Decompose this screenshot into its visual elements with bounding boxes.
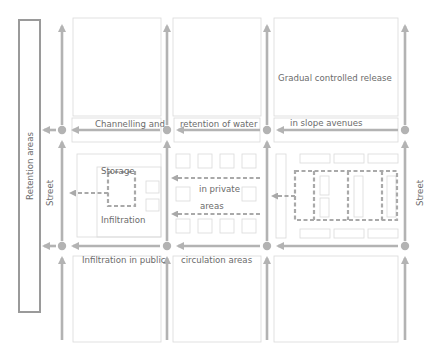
retention-areas-label: Retention areas: [25, 132, 35, 200]
storage-label: Storage: [101, 166, 135, 176]
public-circulation-label-1: Infiltration in public: [82, 255, 166, 265]
junction-node: [263, 242, 271, 250]
retention-areas-box: Retention areas: [19, 20, 40, 312]
junction-node: [263, 126, 271, 134]
channelling-label-2: retention of water: [180, 119, 258, 129]
public-circulation-label-2: circulation areas: [181, 255, 253, 265]
stormwater-diagram: Retention areas: [0, 0, 444, 361]
junction-node: [58, 126, 66, 134]
private-areas-label-2: areas: [200, 201, 224, 211]
gradual-release-label: Gradual controlled release: [278, 73, 392, 83]
street-right-label: Street: [415, 179, 425, 206]
junction-node: [163, 242, 171, 250]
junction-node: [401, 126, 409, 134]
dashed-private-flows: [71, 171, 397, 220]
junction-node: [58, 242, 66, 250]
channelling-label-3: in slope avenues: [290, 118, 363, 128]
channelling-label-1: Channelling and: [95, 119, 165, 129]
junction-node: [401, 242, 409, 250]
street-left-label: Street: [45, 179, 55, 206]
infiltration-label: Infiltration: [101, 215, 145, 225]
private-areas-label-1: in private: [199, 184, 240, 194]
